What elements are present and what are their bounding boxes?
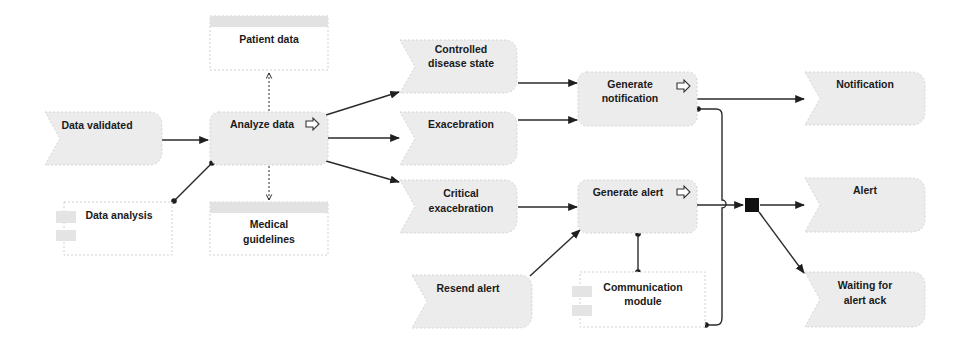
system-icon bbox=[56, 230, 76, 241]
event-label: Exacebration bbox=[428, 118, 494, 130]
edge-analyze-to-critical bbox=[326, 161, 399, 182]
info-patient-data[interactable]: Patient data bbox=[210, 16, 328, 70]
info-label: Medical bbox=[250, 218, 289, 230]
event-label: Waiting for bbox=[838, 279, 892, 291]
system-icon bbox=[56, 211, 76, 223]
event-notification[interactable]: Notification bbox=[805, 72, 925, 125]
event-label: Critical bbox=[443, 187, 479, 199]
org-label: Communication bbox=[603, 281, 682, 293]
org-label: module bbox=[624, 295, 661, 307]
event-label: Data validated bbox=[61, 119, 132, 131]
function-label: notification bbox=[602, 92, 659, 104]
function-label: Analyze data bbox=[230, 118, 294, 130]
event-label: exacebration bbox=[429, 202, 494, 214]
event-label: Alert bbox=[853, 184, 877, 196]
system-icon bbox=[572, 305, 592, 316]
function-label: Generate alert bbox=[593, 186, 664, 198]
event-controlled-disease-state[interactable]: Controlled disease state bbox=[400, 40, 517, 93]
edge-dataanalysis-to-analyze bbox=[174, 163, 212, 201]
org-data-analysis[interactable]: Data analysis bbox=[56, 202, 172, 255]
info-label: guidelines bbox=[243, 233, 295, 245]
function-analyze-data[interactable]: Analyze data bbox=[210, 112, 328, 165]
function-generate-alert[interactable]: Generate alert bbox=[578, 180, 697, 233]
info-medical-guidelines[interactable]: Medical guidelines bbox=[210, 202, 328, 255]
org-label: Data analysis bbox=[85, 209, 152, 221]
event-label: alert ack bbox=[844, 294, 887, 306]
edge-and-to-waiting bbox=[759, 212, 804, 273]
event-label: Resend alert bbox=[436, 282, 500, 294]
info-label: Patient data bbox=[239, 33, 299, 45]
epc-diagram: Data validated Controlled disease state … bbox=[0, 0, 965, 349]
event-label: Notification bbox=[836, 78, 894, 90]
function-label: Generate bbox=[607, 78, 653, 90]
event-waiting-for-alert-ack[interactable]: Waiting for alert ack bbox=[805, 272, 925, 327]
event-critical-exacebration[interactable]: Critical exacebration bbox=[400, 180, 517, 233]
event-exacebration[interactable]: Exacebration bbox=[400, 112, 517, 165]
system-icon bbox=[572, 286, 592, 297]
and-connector[interactable] bbox=[745, 198, 759, 212]
org-communication-module[interactable]: Communication module bbox=[572, 272, 705, 327]
event-alert[interactable]: Alert bbox=[805, 178, 925, 232]
event-resend-alert[interactable]: Resend alert bbox=[412, 275, 532, 328]
edge-resend-to-genalert bbox=[530, 230, 580, 276]
edge-analyze-to-controlled bbox=[326, 92, 399, 115]
function-generate-notification[interactable]: Generate notification bbox=[578, 72, 697, 126]
event-label: disease state bbox=[428, 57, 494, 69]
event-data-validated[interactable]: Data validated bbox=[45, 112, 162, 165]
event-label: Controlled bbox=[435, 43, 488, 55]
